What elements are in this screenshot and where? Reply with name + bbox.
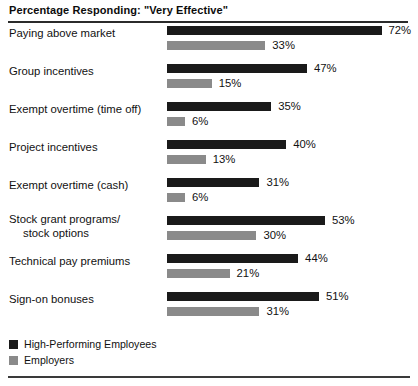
- bar-primary-high-performing-employees: [167, 292, 319, 301]
- bar-value-label: 51%: [326, 289, 349, 303]
- bar-value-label: 53%: [332, 213, 355, 227]
- bar-secondary-employers: [167, 269, 230, 278]
- category-label: Project incentives: [9, 140, 161, 154]
- bar-primary-high-performing-employees: [167, 216, 325, 225]
- category-label-line: Exempt overtime (time off): [9, 103, 141, 115]
- bar-primary-high-performing-employees: [167, 178, 259, 187]
- bar-secondary-employers: [167, 155, 206, 164]
- bar-secondary-employers: [167, 41, 265, 50]
- bar-secondary-employers: [167, 307, 259, 316]
- bar-value-label: 72%: [389, 23, 412, 37]
- category-label-line: stock options: [9, 226, 161, 240]
- legend-label: Employers: [24, 354, 74, 366]
- legend-swatch-icon: [9, 356, 18, 365]
- bar-value-label: 30%: [263, 228, 286, 242]
- footer-divider-rule: [8, 376, 410, 378]
- bar-value-label: 6%: [192, 190, 208, 204]
- legend-label: High-Performing Employees: [24, 338, 156, 350]
- category-label-line: Paying above market: [9, 27, 115, 39]
- category-label-line: Group incentives: [9, 65, 94, 77]
- category-label: Paying above market: [9, 26, 161, 40]
- category-label-line: Technical pay premiums: [9, 255, 130, 267]
- bar-value-label: 15%: [219, 76, 242, 90]
- bar-value-label: 6%: [192, 114, 208, 128]
- category-label-line: Exempt overtime (cash): [9, 179, 128, 191]
- bar-value-label: 31%: [266, 304, 289, 318]
- bar-primary-high-performing-employees: [167, 64, 307, 73]
- chart-container: Percentage Responding: "Very Effective" …: [0, 0, 418, 386]
- bar-row: Sign-on bonuses51%31%: [0, 292, 418, 330]
- category-label-line: Sign-on bonuses: [9, 293, 94, 305]
- bar-row: Paying above market72%33%: [0, 26, 418, 64]
- bar-secondary-employers: [167, 231, 256, 240]
- bar-primary-high-performing-employees: [167, 254, 298, 263]
- bar-row: Exempt overtime (cash)31%6%: [0, 178, 418, 216]
- bar-value-label: 31%: [266, 175, 289, 189]
- bar-primary-high-performing-employees: [167, 102, 271, 111]
- bar-rows: Paying above market72%33%Group incentive…: [0, 26, 418, 330]
- legend-item-employers: Employers: [9, 353, 156, 367]
- bar-value-label: 47%: [314, 61, 337, 75]
- bar-row: Stock grant programs/stock options53%30%: [0, 216, 418, 254]
- bar-primary-high-performing-employees: [167, 26, 382, 35]
- bar-value-label: 21%: [237, 266, 260, 280]
- bar-row: Project incentives40%13%: [0, 140, 418, 178]
- chart-legend: High-Performing Employees Employers: [9, 337, 156, 369]
- legend-swatch-icon: [9, 340, 18, 349]
- bar-value-label: 13%: [213, 152, 236, 166]
- bar-primary-high-performing-employees: [167, 140, 286, 149]
- bar-row: Technical pay premiums44%21%: [0, 254, 418, 292]
- bar-value-label: 40%: [293, 137, 316, 151]
- category-label: Exempt overtime (time off): [9, 102, 161, 116]
- category-label-line: Stock grant programs/: [9, 213, 120, 225]
- bar-secondary-employers: [167, 117, 185, 126]
- legend-item-high-performing-employees: High-Performing Employees: [9, 337, 156, 351]
- bar-value-label: 33%: [272, 38, 295, 52]
- category-label: Group incentives: [9, 64, 161, 78]
- bar-value-label: 44%: [305, 251, 328, 265]
- category-label: Stock grant programs/stock options: [9, 212, 161, 240]
- title-divider-rule: [8, 21, 408, 23]
- bar-value-label: 35%: [278, 99, 301, 113]
- bar-secondary-employers: [167, 79, 212, 88]
- bar-secondary-employers: [167, 193, 185, 202]
- chart-title: Percentage Responding: "Very Effective": [9, 4, 228, 16]
- category-label: Sign-on bonuses: [9, 292, 161, 306]
- bar-row: Exempt overtime (time off)35%6%: [0, 102, 418, 140]
- category-label: Exempt overtime (cash): [9, 178, 161, 192]
- category-label-line: Project incentives: [9, 141, 98, 153]
- bar-row: Group incentives47%15%: [0, 64, 418, 102]
- category-label: Technical pay premiums: [9, 254, 161, 268]
